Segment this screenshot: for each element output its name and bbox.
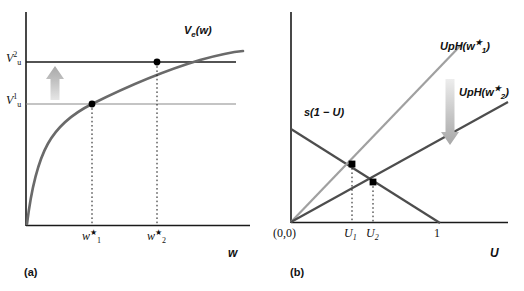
panel-a-label-vu1: V1u (6, 94, 21, 106)
up-arrow-icon (46, 66, 64, 100)
panel-b-xtick-one: 1 (434, 227, 440, 239)
panel-b: UpH(w★1) UpH(w★2) s(1 − U) (0,0) U1 U2 1… (262, 0, 524, 291)
panel-a-plot (0, 0, 262, 291)
panel-a-axis-label-w: w (228, 246, 237, 260)
panel-b-xtick-u2: U2 (366, 227, 379, 239)
panel-b-point-2 (370, 179, 377, 186)
panel-a-curve-label-ve: Ve(w) (184, 24, 212, 36)
panel-a-label-vu2: V2u (6, 52, 21, 64)
panel-a-tag: (a) (24, 266, 37, 278)
panel-a: V2u V1u Ve(w) w★1 w★2 w (a) (0, 0, 262, 291)
panel-b-line-uph2 (291, 102, 508, 222)
panel-a-point-2 (154, 59, 161, 66)
panel-a-xtick-w1: w★1 (82, 230, 101, 242)
panel-b-tag: (b) (290, 266, 304, 278)
panel-b-curve-label-s: s(1 − U) (304, 106, 344, 118)
panel-b-line-uph1 (291, 44, 462, 222)
figure-container: V2u V1u Ve(w) w★1 w★2 w (a) (0, 0, 524, 291)
down-arrow-icon (441, 79, 459, 145)
panel-b-curve-label-uph1: UpH(w★1) (440, 40, 490, 52)
panel-b-curve-label-uph2: UpH(w★2) (459, 86, 509, 98)
panel-a-point-1 (89, 101, 96, 108)
panel-a-xtick-w2: w★2 (147, 230, 166, 242)
panel-b-axis-label-u: U (490, 246, 499, 260)
panel-b-origin-label: (0,0) (273, 227, 296, 239)
panel-b-point-1 (349, 161, 356, 168)
panel-b-xtick-u1: U1 (344, 227, 357, 239)
